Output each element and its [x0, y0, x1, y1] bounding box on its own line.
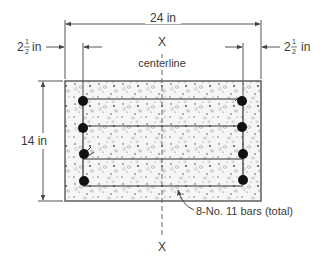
height-dimension: 14 in	[16, 81, 63, 201]
rebar	[78, 123, 88, 133]
width-label: 24 in	[150, 11, 176, 25]
axis-bottom-label: X	[158, 240, 166, 254]
height-label: 14 in	[21, 134, 47, 148]
bars-label: 8-No. 11 bars (total)	[196, 205, 293, 217]
rebar	[79, 176, 89, 186]
rebar	[238, 175, 248, 185]
rebar	[78, 96, 88, 106]
cover-left-whole: 2	[17, 40, 24, 54]
rebar	[237, 96, 247, 106]
rebar	[237, 122, 247, 132]
centerline-label: centerline	[138, 57, 186, 69]
cover-right-whole: 2	[284, 40, 291, 54]
rebar	[238, 149, 248, 159]
cover-right-den: 2	[292, 48, 296, 55]
axis-top-label: X	[158, 35, 166, 49]
cover-left-num: 1	[25, 38, 29, 45]
cover-right-num: 1	[292, 38, 296, 45]
cover-left-unit: in	[32, 40, 41, 54]
cover-left-den: 2	[25, 48, 29, 55]
cover-right-unit: in	[301, 40, 310, 54]
beam-cross-section-diagram: 24 in 2 1 2 in 2 1 2 in 14 in X centerli…	[0, 0, 324, 264]
